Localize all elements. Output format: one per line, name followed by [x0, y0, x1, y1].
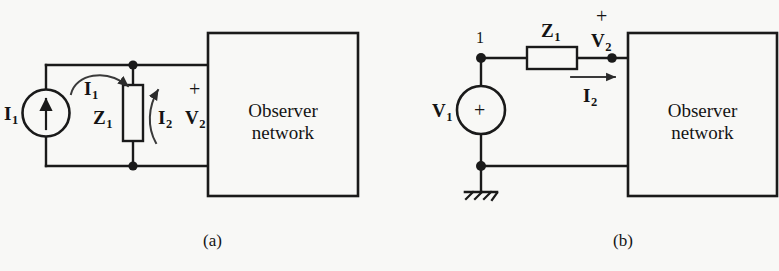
- label-node-number-1: 1: [476, 30, 484, 46]
- node-dot-a-bottom: [128, 161, 137, 170]
- observer-network-line2: network: [208, 122, 358, 144]
- label-port-current-i2-a: I2: [158, 108, 172, 130]
- label-polarity-plus-a: +: [189, 79, 200, 99]
- observer-network-line1-b: Observer: [628, 100, 777, 122]
- port-current-i2-arc: [150, 90, 158, 143]
- label-polarity-plus-b: +: [596, 6, 607, 26]
- label-port-voltage-v2-a: V2: [185, 108, 205, 130]
- node-dot-b-ground: [476, 161, 486, 171]
- observer-network-line1: Observer: [208, 100, 358, 122]
- observer-network-label-a: Observer network: [208, 100, 358, 145]
- observer-network-line2-b: network: [628, 122, 777, 144]
- label-port-current-i2-b: I2: [583, 86, 597, 108]
- node-dot-a-top: [128, 60, 137, 69]
- label-mesh-current-i1: I1: [84, 79, 98, 101]
- figure-canvas: I1 I1 Z1 I2 + V2 Observer network (a) 1 …: [0, 0, 779, 271]
- label-source-current-i1: I1: [4, 104, 18, 126]
- mesh-current-i1-arc: [71, 75, 128, 94]
- panel-a-z1-branch: [123, 65, 143, 166]
- node-dot-b-node1: [476, 53, 486, 63]
- node-dot-b-port: [607, 53, 617, 63]
- label-source-polarity-plus: +: [474, 100, 485, 120]
- ground-symbol: [465, 166, 497, 200]
- label-impedance-z1-b: Z1: [541, 21, 560, 43]
- observer-network-label-b: Observer network: [628, 100, 777, 145]
- label-port-voltage-v2-b: V2: [591, 31, 611, 53]
- impedance-z1-body-b: [527, 47, 577, 69]
- label-source-voltage-v1: V1: [432, 101, 452, 123]
- label-impedance-z1-a: Z1: [93, 108, 112, 130]
- caption-panel-b: (b): [613, 232, 633, 249]
- caption-panel-a: (a): [203, 232, 222, 249]
- impedance-z1-body: [123, 85, 143, 141]
